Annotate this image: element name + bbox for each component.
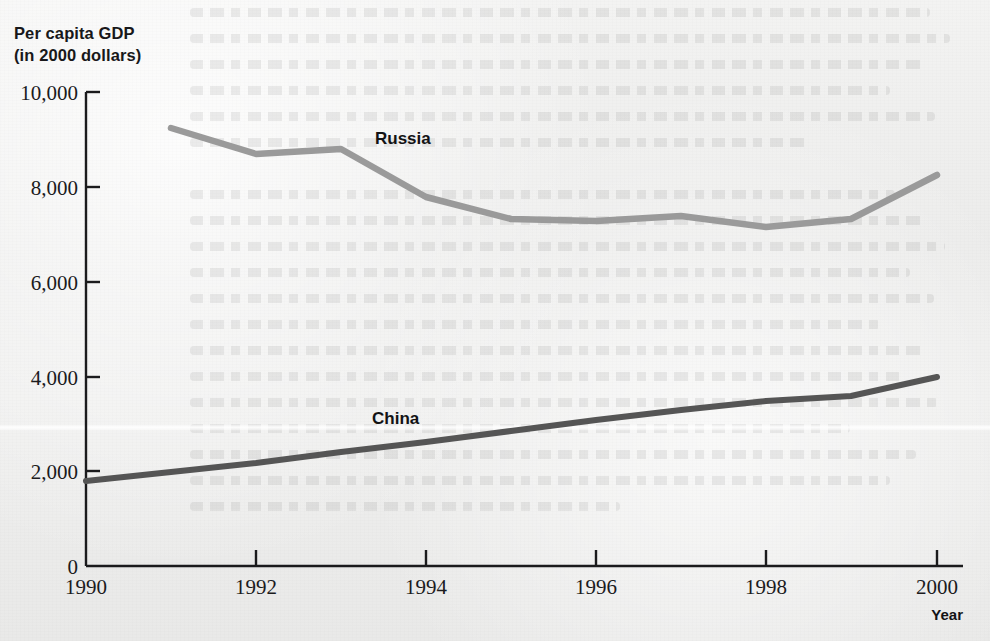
y-tick-label-6000: 6,000 [31,271,78,295]
series-label-russia: Russia [375,129,431,148]
x-axis-name: Year [931,606,963,623]
y-tick-label-2000: 2,000 [31,460,78,484]
x-tick-label-1996: 1996 [575,575,617,599]
x-tick-label-1998: 1998 [745,575,787,599]
y-axis: 10,000 8,000 6,000 4,000 2,000 0 [20,81,100,579]
y-tick-label-10000: 10,000 [20,81,78,105]
x-tick-label-1990: 1990 [65,575,107,599]
plot-area: 10,000 8,000 6,000 4,000 2,000 0 1990 19… [0,0,990,641]
x-tick-label-1994: 1994 [405,575,448,599]
chart-figure: Per capita GDP (in 2000 dollars) 10,000 … [0,0,990,641]
x-tick-label-1992: 1992 [235,575,277,599]
y-tick-label-8000: 8,000 [31,176,78,200]
y-tick-label-4000: 4,000 [31,366,78,390]
series-line-china [86,377,937,481]
x-tick-label-2000: 2000 [916,575,958,599]
series-line-russia [171,128,937,227]
x-axis: 1990 1992 1994 1996 1998 2000 Year [65,550,963,623]
series-label-china: China [372,409,420,428]
